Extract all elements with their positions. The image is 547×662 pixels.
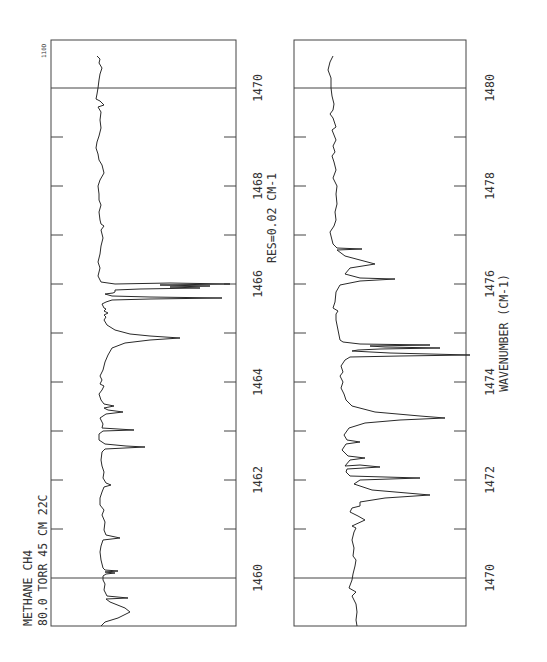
tick-label-1464: 1464 xyxy=(251,368,265,396)
panel-2-ticks xyxy=(294,137,466,529)
tick-label-1480: 1480 xyxy=(483,74,497,102)
panel-2-tick-labels: 1480 1478 1476 1474 1472 1470 xyxy=(483,74,497,592)
sample-label-line1: METHANE CH4 xyxy=(21,550,35,626)
tick-label-1468: 1468 xyxy=(251,172,265,200)
panel-1-spectrum-trace xyxy=(96,56,230,626)
tick-label-1470: 1470 xyxy=(251,74,265,102)
tick-label-1474: 1474 xyxy=(483,368,497,396)
tick-label-1470: 1470 xyxy=(483,564,497,592)
panel-2: 1480 1478 1476 1474 1472 1470 WAVENUMBER… xyxy=(294,40,511,626)
tick-label-1462: 1462 xyxy=(251,466,265,494)
sample-label-line2: 80.0 TORR 45 CM 22C xyxy=(36,494,50,626)
spectrum-figure: 110D METHANE CH4 80.0 TORR 45 CM 22C 147… xyxy=(0,0,547,662)
panel-1: 1470 1468 1466 1464 1462 1460 RES=0.02 C… xyxy=(51,40,279,626)
figure-id-label: 110D xyxy=(40,43,47,58)
panel-1-frame xyxy=(51,40,236,626)
x-axis-label: WAVENUMBER (CM-1) xyxy=(497,274,511,392)
panel-2-spectrum-trace xyxy=(328,56,470,626)
panel-1-tick-labels: 1470 1468 1466 1464 1462 1460 xyxy=(251,74,265,592)
tick-label-1466: 1466 xyxy=(251,270,265,298)
panel-1-ticks xyxy=(51,137,236,529)
tick-label-1472: 1472 xyxy=(483,466,497,494)
tick-label-1478: 1478 xyxy=(483,172,497,200)
tick-label-1476: 1476 xyxy=(483,270,497,298)
tick-label-1460: 1460 xyxy=(251,564,265,592)
resolution-label: RES=0.02 CM-1 xyxy=(265,173,279,263)
panel-2-frame xyxy=(294,40,466,626)
